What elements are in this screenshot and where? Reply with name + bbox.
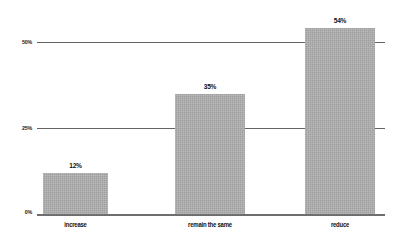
x-axis-category-label-increase: increase (48, 221, 103, 228)
x-axis-category-label-reduce: reduce (310, 221, 370, 228)
bar-chart: 50% 25% 0% 12% 35% 54% increase remain t… (0, 0, 398, 247)
bar-increase[interactable] (43, 173, 108, 214)
y-axis-tick-label-0: 0% (9, 209, 32, 215)
bar-value-label-reduce: 54% (311, 17, 368, 25)
bar-value-label-increase: 12% (49, 162, 102, 170)
bar-value-label-remain-the-same: 35% (181, 83, 238, 91)
bar-remain-the-same[interactable] (175, 94, 245, 214)
y-axis-tick-label-25: 25% (9, 125, 32, 131)
bar-reduce[interactable] (305, 28, 375, 214)
y-axis-tick-label-50: 50% (9, 39, 32, 45)
x-axis-baseline (37, 214, 385, 216)
plot-area (37, 20, 385, 215)
x-axis-category-label-remain-the-same: remain the same (168, 221, 253, 228)
